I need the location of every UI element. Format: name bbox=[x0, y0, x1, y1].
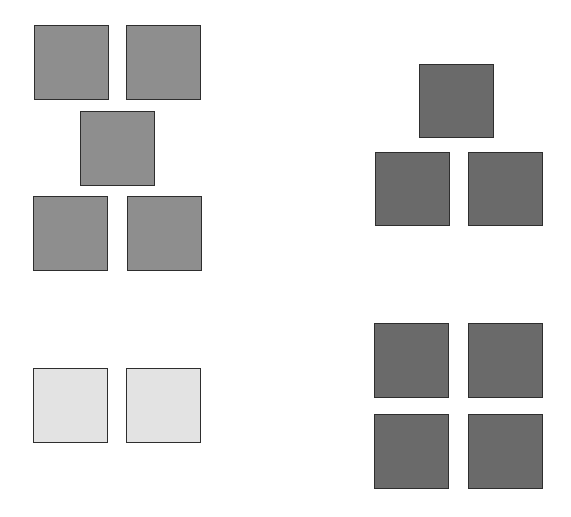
square bbox=[33, 368, 108, 443]
square bbox=[419, 64, 494, 138]
square bbox=[126, 25, 201, 100]
square bbox=[80, 111, 155, 186]
square bbox=[374, 414, 449, 489]
square bbox=[34, 25, 109, 100]
square bbox=[33, 196, 108, 271]
square bbox=[127, 196, 202, 271]
square bbox=[468, 414, 543, 489]
square bbox=[126, 368, 201, 443]
square bbox=[468, 323, 543, 398]
square bbox=[374, 323, 449, 398]
square bbox=[375, 152, 450, 226]
square bbox=[468, 152, 543, 226]
